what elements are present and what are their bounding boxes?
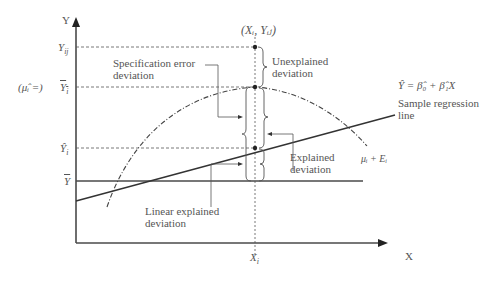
yij-label: Yij — [58, 41, 69, 58]
total-deviation-brace — [242, 87, 251, 181]
linear-explained-leader — [211, 164, 240, 207]
regression-equation: Ŷ = β̂₀ + β̂₁X — [398, 79, 455, 91]
x-axis-label: X — [405, 250, 413, 262]
spec-error-leader — [205, 65, 240, 117]
linear-explained-brace — [259, 149, 264, 181]
regression-deviation-diagram: Y X Xi Yij Yi (μ̂ᵢ =) Ŷi Y (Xᵢ, Yᵢⱼ) Spe… — [0, 0, 497, 281]
y-axis-arrow-icon — [72, 17, 80, 27]
x-axis-arrow-icon — [378, 239, 388, 247]
explained-label: Explaineddeviation — [290, 151, 335, 175]
sample-regression-line — [76, 115, 395, 201]
unexplained-label: Unexplaineddeviation — [272, 55, 328, 79]
mu-hat-note: (μ̂ᵢ =) — [18, 81, 43, 93]
xi-label: Xi — [250, 251, 259, 268]
spec-error-arrow-icon — [238, 115, 243, 119]
curve-label: μᵢ + Eᵢ — [361, 153, 387, 165]
unexplained-brace — [258, 47, 267, 87]
explained-arrow-icon — [267, 132, 272, 136]
yhat-i-label: Ŷi — [60, 142, 68, 159]
spec-error-label: Specification errordeviation — [113, 57, 195, 81]
y-axis-label: Y — [62, 14, 70, 26]
point-yhat-i — [253, 146, 257, 150]
point-yij — [253, 45, 257, 49]
linear-explained-label: Linear explaineddeviation — [145, 205, 219, 229]
point-ybar-i — [253, 85, 257, 89]
linear-explained-arrow-icon — [238, 162, 243, 166]
ybar-i-label: Yi — [60, 81, 68, 98]
mu-plus-e-curve — [107, 87, 367, 207]
ybar-label: Y — [64, 175, 70, 187]
point-label: (Xᵢ, Yᵢⱼ) — [241, 24, 276, 36]
regression-line-label: Sample regressionline — [398, 97, 479, 121]
spec-error-brace — [259, 88, 268, 148]
